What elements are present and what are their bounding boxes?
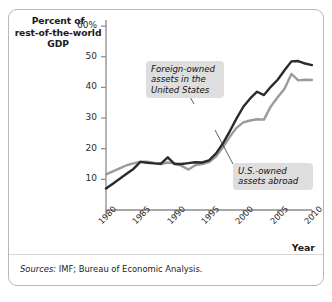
sources-text: IMF; Bureau of Economic Analysis. [56,264,202,274]
y-tick-label: 50 [69,51,97,61]
y-tick-label: 60% [69,20,97,30]
annotation-foreign-line-3: United States [151,85,220,95]
annotation-foreign-line-2: assets in the [151,74,220,84]
annotation-foreign-line-1: Foreign-owned [151,64,220,74]
y-tick-label: 20 [69,143,97,153]
y-tick-label: 40 [69,81,97,91]
y-tick-label: 30 [69,112,97,122]
annotation-us-line-1: U.S.-owned [238,166,309,176]
plot-area [8,9,324,286]
annotation-us-owned: U.S.-owned assets abroad [233,163,313,190]
y-axis-ticks [101,26,106,179]
annotation-us-line-2: assets abroad [238,176,309,186]
x-axis-title: Year [292,242,315,253]
annotation-foreign-owned: Foreign-owned assets in the United State… [146,61,224,98]
chart-figure: Percent of rest-of-the-world GDP 1020304… [0,0,332,302]
sources-note: Sources: IMF; Bureau of Economic Analysi… [20,264,202,274]
sources-keyword: Sources: [20,264,56,274]
y-tick-label: 10 [69,173,97,183]
footer-divider [9,254,323,255]
